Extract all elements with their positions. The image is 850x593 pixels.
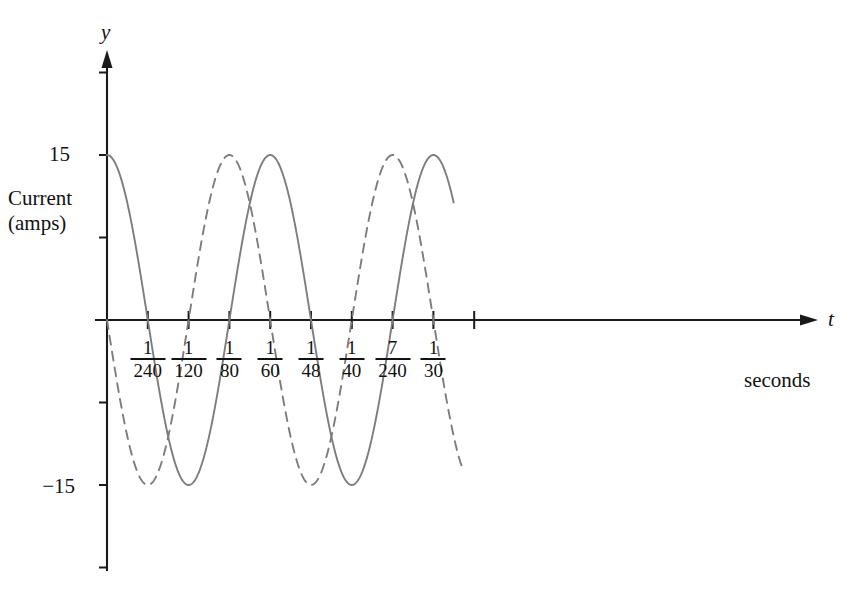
fraction-denominator: 120 xyxy=(171,361,206,380)
fraction-denominator: 40 xyxy=(339,361,364,380)
x-tick-fraction-label: 148 xyxy=(298,338,323,380)
x-tick-fraction-label: 7240 xyxy=(375,338,410,380)
x-tick-fraction-label: 160 xyxy=(258,338,283,380)
y-axis-title: Current (amps) xyxy=(8,186,72,236)
fraction-denominator: 240 xyxy=(130,361,165,380)
x-tick-fraction-label: 180 xyxy=(217,338,242,380)
fraction-denominator: 80 xyxy=(217,361,242,380)
axes-group xyxy=(95,50,818,571)
fraction-numerator: 1 xyxy=(339,338,364,358)
y-axis-title-line1: Current xyxy=(8,186,72,210)
x-axis-variable-label: t xyxy=(828,309,834,330)
x-tick-fraction-label: 1240 xyxy=(130,338,165,380)
fraction-numerator: 1 xyxy=(258,338,283,358)
fraction-numerator: 1 xyxy=(421,338,446,358)
fraction-numerator: 1 xyxy=(217,338,242,358)
x-tick-fraction-label: 130 xyxy=(421,338,446,380)
y-axis-arrowhead xyxy=(102,50,113,68)
fraction-denominator: 60 xyxy=(258,361,283,380)
fraction-denominator: 240 xyxy=(375,361,410,380)
x-tick-fraction-label: 140 xyxy=(339,338,364,380)
y-axis-variable-label: y xyxy=(101,22,110,43)
fraction-denominator: 30 xyxy=(421,361,446,380)
x-axis-arrowhead xyxy=(800,315,818,326)
y-tick-label-15: 15 xyxy=(49,144,70,165)
fraction-numerator: 1 xyxy=(171,338,206,358)
current-waveform-figure: y t Current (amps) 15 −15 seconds 124011… xyxy=(0,0,850,593)
fraction-denominator: 48 xyxy=(298,361,323,380)
x-axis-unit-label: seconds xyxy=(744,370,811,391)
y-axis-title-line2: (amps) xyxy=(8,211,66,235)
fraction-numerator: 1 xyxy=(298,338,323,358)
fraction-numerator: 7 xyxy=(375,338,410,358)
chart-canvas xyxy=(0,0,850,593)
fraction-numerator: 1 xyxy=(130,338,165,358)
y-tick-label-minus15: −15 xyxy=(42,476,75,497)
x-tick-fraction-label: 1120 xyxy=(171,338,206,380)
